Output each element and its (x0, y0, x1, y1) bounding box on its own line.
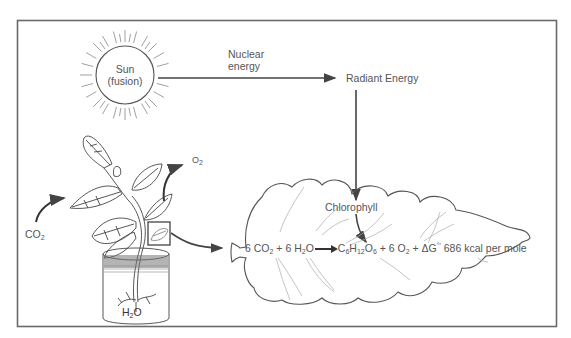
o2-label: O2 (192, 154, 203, 169)
sun-label-line1: Sun (103, 63, 147, 75)
co2-arrow (36, 198, 64, 222)
eq-glucose-h: H (349, 242, 357, 254)
radiant-energy-label: Radiant Energy (346, 72, 418, 84)
h2o-label: H2O (122, 306, 142, 322)
o2-sub: 2 (199, 159, 203, 166)
sun-label-line2: (fusion) (103, 75, 147, 87)
co2-base: CO (25, 228, 41, 240)
eq-h2o-tail: O (306, 242, 314, 254)
nuclear-energy-line1: Nuclear (228, 48, 264, 60)
nuclear-energy-line2: energy (228, 60, 264, 72)
co2-label: CO2 (25, 228, 45, 244)
chlorophyll-label: Chlorophyll (325, 201, 378, 213)
diagram-frame (18, 21, 557, 327)
eq-glucose-o: O (365, 242, 373, 254)
eq-h2o: 6 H (285, 242, 301, 254)
reaction-arrow-icon (314, 244, 338, 254)
co2-sub: 2 (41, 234, 45, 241)
plant-icon (70, 136, 172, 324)
h2o-o: O (134, 306, 142, 318)
sun-label: Sun (fusion) (103, 63, 147, 87)
h2o-h: H (122, 306, 130, 318)
chlorophyll-arrow (356, 214, 366, 242)
magnify-arrow (171, 233, 222, 248)
o2-base: O (192, 155, 199, 165)
nuclear-energy-label: Nuclear energy (228, 48, 264, 72)
eq-co2: 6 CO (245, 242, 270, 254)
diagram-drawing (0, 0, 571, 338)
eq-plus: + (273, 242, 285, 254)
eq-glucose-h-sub: 12 (357, 248, 365, 255)
eq-energy-value: 686 kcal per mole (441, 242, 527, 254)
photosynthesis-equation: 6 CO2 + 6 H2OC6H12O6 + 6 O2 + ΔG°′ 686 k… (245, 240, 527, 258)
eq-o2: + 6 O (377, 242, 406, 254)
eq-delta-g: + ΔG (410, 242, 437, 254)
photosynthesis-diagram: Sun (fusion) Nuclear energy Radiant Ener… (0, 0, 571, 338)
